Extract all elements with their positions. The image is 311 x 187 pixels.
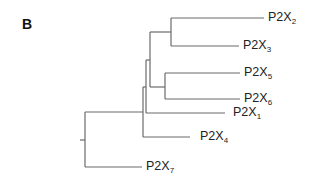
leaf-subscript: 1 bbox=[257, 112, 261, 121]
leaf-prefix: P2X bbox=[244, 65, 268, 79]
leaf-prefix: P2X bbox=[244, 91, 268, 105]
leaf-label-p2x5: P2X5 bbox=[244, 66, 272, 81]
leaf-prefix: P2X bbox=[268, 10, 292, 24]
leaf-label-p2x2: P2X2 bbox=[268, 11, 296, 26]
leaf-label-p2x7: P2X7 bbox=[146, 160, 174, 175]
leaf-subscript: 3 bbox=[267, 45, 271, 54]
leaf-label-p2x4: P2X4 bbox=[200, 130, 228, 145]
leaf-subscript: 5 bbox=[268, 72, 272, 81]
leaf-subscript: 2 bbox=[292, 17, 296, 26]
leaf-prefix: P2X bbox=[146, 159, 170, 173]
leaf-subscript: 4 bbox=[224, 136, 228, 145]
leaf-prefix: P2X bbox=[233, 105, 257, 119]
leaf-prefix: P2X bbox=[243, 38, 267, 52]
leaf-subscript: 7 bbox=[170, 166, 174, 175]
leaf-prefix: P2X bbox=[200, 129, 224, 143]
leaf-subscript: 6 bbox=[268, 98, 272, 107]
leaf-label-p2x3: P2X3 bbox=[243, 39, 271, 54]
leaf-label-p2x1: P2X1 bbox=[233, 106, 261, 121]
